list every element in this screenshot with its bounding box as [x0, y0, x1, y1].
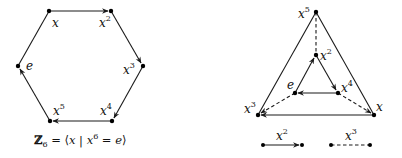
legend-solid-end-node — [300, 143, 304, 147]
node-x4 — [336, 91, 340, 95]
edge-x3-to-x5 — [258, 12, 316, 115]
node-x — [47, 9, 51, 13]
cayley-graphs-figure: x x2 x3 x4 x5 e ℤ6 = ⟨x | x6 = e⟩ x5 x2 … — [0, 0, 402, 158]
edge-e-to-x2 — [295, 58, 314, 93]
legend-dashed-end-node — [368, 143, 372, 147]
label-x2: x2 — [99, 14, 111, 30]
node-e — [16, 64, 20, 68]
label-x5: x5 — [53, 102, 65, 118]
label-x4: x4 — [341, 79, 353, 95]
legend-dashed-label: x3 — [345, 127, 357, 143]
hexagon-cayley-graph: x x2 x3 x4 x5 e ℤ6 = ⟨x | x6 = e⟩ — [16, 9, 145, 149]
label-x: x — [52, 16, 59, 30]
edge-x5-to-x — [316, 12, 374, 115]
label-x: x — [376, 100, 383, 114]
node-x3 — [141, 64, 145, 68]
legend-solid-start-node — [261, 143, 265, 147]
label-x3: x3 — [244, 100, 256, 116]
node-x3 — [256, 113, 260, 117]
node-x5 — [48, 119, 52, 123]
legend-dashed-start-node — [329, 143, 333, 147]
edge-x5-to-e — [20, 69, 50, 121]
node-x2 — [109, 9, 113, 13]
legend-item-dashed: x3 — [329, 127, 372, 147]
legend-item-solid: x2 — [261, 127, 304, 147]
node-x4 — [110, 119, 114, 123]
edge-e-to-x3-dashed — [261, 93, 295, 113]
legend: x2 x3 — [261, 127, 372, 147]
label-x2: x2 — [320, 47, 332, 63]
group-presentation-caption: ℤ6 = ⟨x | x6 = e⟩ — [34, 132, 126, 149]
triangle-cayley-graph: x5 x2 e x4 x3 x x2 x3 — [244, 5, 383, 147]
label-x3: x3 — [123, 61, 135, 77]
node-x5 — [314, 10, 318, 14]
edge-x4-to-x-dashed — [338, 93, 371, 113]
edge-x2-to-x3 — [111, 11, 141, 63]
label-e: e — [26, 59, 33, 73]
label-x4: x4 — [100, 102, 112, 118]
label-e: e — [287, 78, 294, 92]
legend-solid-label: x2 — [276, 127, 288, 143]
label-x5: x5 — [298, 5, 310, 21]
node-x2 — [314, 53, 318, 57]
